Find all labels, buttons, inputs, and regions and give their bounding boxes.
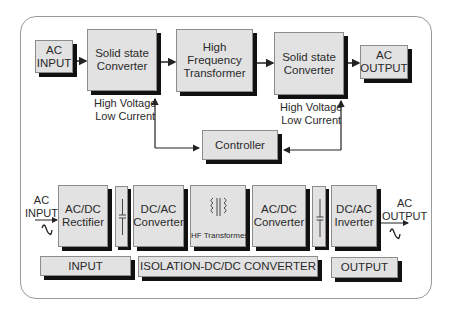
hf-transformer-box: HF Transformes xyxy=(190,185,246,247)
section-output: OUTPUT xyxy=(331,257,398,278)
ac-input-box: ACINPUT xyxy=(35,40,73,73)
capacitor-block-1 xyxy=(115,186,128,247)
annotation-high-voltage-2: High Voltage Low Current xyxy=(280,101,342,126)
capacitor-icon xyxy=(313,187,327,248)
high-frequency-transformer: High FrequencyTransformer xyxy=(176,29,253,92)
dcac-inverter-box: DC/ACInverter xyxy=(331,185,377,247)
transformer-coil-icon xyxy=(207,196,231,220)
solid-state-converter-1: Solid stateConverter xyxy=(87,29,157,91)
bottom-ac-output-label: AC OUTPUT xyxy=(382,197,427,222)
solid-state-converter-2: Solid stateConverter xyxy=(274,32,344,95)
capacitor-block-2 xyxy=(312,186,326,247)
acdc-converter-box: AC/DCConverter xyxy=(252,185,306,247)
bottom-ac-input-label: AC INPUT xyxy=(25,194,58,219)
section-isolation: ISOLATION-DC/DC CONVERTER xyxy=(138,256,318,277)
dcac-converter-box: DC/ACConverter xyxy=(133,185,184,247)
sine-wave-icon xyxy=(42,225,52,235)
controller-box: Controller xyxy=(202,130,278,160)
capacitor-icon xyxy=(116,187,129,248)
annotation-high-voltage-1: High Voltage Low Current xyxy=(94,97,156,122)
acdc-rectifier-box: AC/DCRectifier xyxy=(58,185,108,247)
section-input: INPUT xyxy=(40,256,131,276)
ac-output-box: ACOUTPUT xyxy=(360,45,408,79)
sine-wave-icon xyxy=(390,229,400,239)
